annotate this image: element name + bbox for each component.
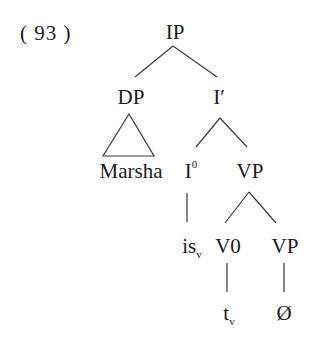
edge-ip-ibar <box>173 46 217 77</box>
node-null: Ø <box>276 302 291 324</box>
node-ip: IP <box>166 21 185 43</box>
node-i0: I0 <box>185 160 198 182</box>
node-vp-upper: VP <box>237 160 264 182</box>
node-marsha: Marsha <box>100 160 163 182</box>
node-dp: DP <box>118 86 145 108</box>
node-t-v: tv <box>223 302 234 324</box>
edge-ip-dp <box>135 46 173 77</box>
edge-ibar-vp <box>220 118 247 147</box>
node-v0: V0 <box>215 235 241 257</box>
edge-vp-v0 <box>225 192 249 223</box>
edge-ibar-i0 <box>196 118 220 147</box>
node-is-v: isv <box>182 235 202 257</box>
node-ibar: I′ <box>213 86 225 108</box>
edge-dp-triangle <box>103 114 154 156</box>
edge-vp-vp <box>249 192 276 223</box>
node-vp-lower: VP <box>272 235 299 257</box>
